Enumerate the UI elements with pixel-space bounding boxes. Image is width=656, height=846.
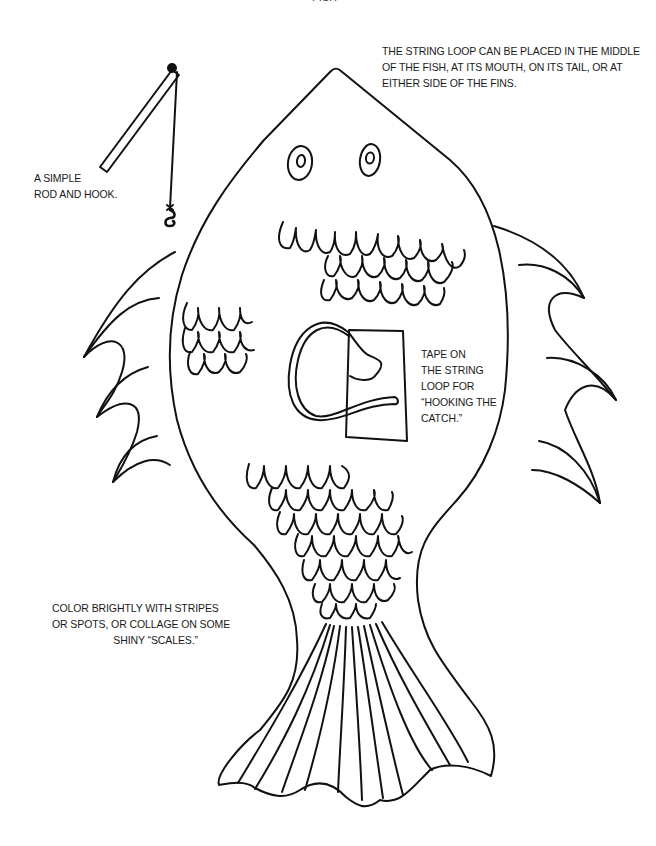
rod-caption: A SIMPLE ROD AND HOOK.: [34, 170, 117, 202]
caption-line: SHINY “SCALES.”: [52, 632, 198, 648]
tape-caption: TAPE ON THE STRING LOOP FOR “HOOKING THE…: [421, 346, 497, 426]
craft-page: FISH: [0, 0, 656, 846]
caption-line: A SIMPLE: [34, 170, 117, 186]
eyes: [286, 143, 382, 182]
right-eye: [358, 143, 382, 177]
caption-line: THE STRING LOOP CAN BE PLACED IN THE MID…: [382, 43, 640, 59]
caption-line: COLOR BRIGHTLY WITH STRIPES: [52, 600, 198, 616]
string-loop: [289, 323, 398, 420]
fish-body: [170, 69, 508, 806]
left-eye: [286, 144, 314, 181]
color-caption: COLOR BRIGHTLY WITH STRIPES OR SPOTS, OR…: [52, 600, 198, 648]
caption-line: “HOOKING THE: [421, 394, 497, 410]
scales-lower: [247, 464, 412, 618]
caption-line: LOOP FOR: [421, 378, 497, 394]
hook-icon: [166, 205, 175, 226]
fishing-line: [170, 72, 177, 208]
tape-strip: [346, 330, 407, 441]
scales-upper: [279, 222, 465, 305]
caption-line: OF THE FISH, AT ITS MOUTH, ON ITS TAIL, …: [382, 59, 640, 75]
string-loop-caption: THE STRING LOOP CAN BE PLACED IN THE MID…: [382, 43, 640, 91]
caption-line: ROD AND HOOK.: [34, 186, 117, 202]
caption-line: OR SPOTS, OR COLLAGE ON SOME: [52, 616, 198, 632]
left-fin: [84, 252, 175, 482]
scales-left: [183, 303, 254, 374]
fish-illustration: [0, 0, 656, 846]
right-fin: [494, 226, 616, 503]
caption-line: THE STRING: [421, 362, 497, 378]
caption-line: TAPE ON: [421, 346, 497, 362]
caption-line: EITHER SIDE OF THE FINS.: [382, 75, 640, 91]
caption-line: CATCH.”: [421, 410, 497, 426]
